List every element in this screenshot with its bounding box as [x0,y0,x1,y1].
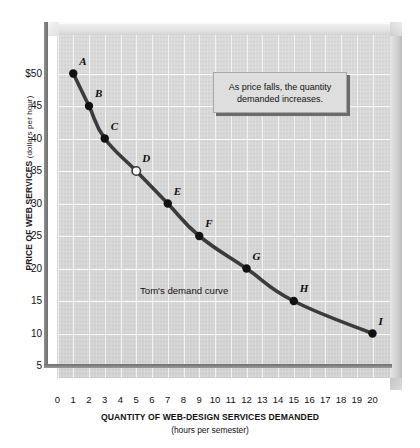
callout-text: As price falls, the quantity demanded in… [214,81,346,105]
data-point-label: F [205,218,212,229]
gridline-horizontal [57,269,390,270]
y-tick-label: 45 [2,101,42,111]
y-tick-label: 20 [2,264,42,274]
gridline-horizontal [57,236,390,237]
gridline-horizontal [57,171,390,172]
gridline-vertical [73,35,74,378]
y-tick-label: 15 [2,296,42,306]
x-axis-title: QUANTITY OF WEB-DESIGN SERVICES DEMANDED [0,412,420,422]
callout-body: As price falls, the quantity demanded in… [213,72,347,113]
data-point-label: G [253,251,261,262]
y-axis-line [44,22,48,368]
frame-corner-bottom-right [390,378,402,390]
annotation-callout: As price falls, the quantity demanded in… [213,72,347,113]
gridline-horizontal [57,301,390,302]
data-point-label: E [174,186,181,197]
x-axis-ticks: 01234567891011121314151617181920 [0,395,420,409]
y-tick-label: 35 [2,166,42,176]
y-tick-label: 5 [2,361,42,371]
frame-corner-top-left [47,22,59,36]
gridline-horizontal [57,334,390,335]
gridline-horizontal [57,139,390,140]
gridline-vertical [89,35,90,378]
x-axis-title-sub: (hours per semester) [0,425,420,435]
y-tick-label: $50 [2,69,42,79]
gridline-vertical [58,35,59,378]
gridline-vertical [152,35,153,378]
data-point-label: H [300,283,309,294]
gridline-vertical [184,35,185,378]
y-tick-label: 40 [2,134,42,144]
x-axis-line [44,364,392,368]
gridline-vertical [105,35,106,378]
y-tick-label: 30 [2,199,42,209]
curve-label: Tom's demand curve [140,285,228,296]
gridline-vertical [373,35,374,378]
gridline-horizontal [57,204,390,205]
frame-corner-top-right [390,22,402,36]
gridline-vertical [136,35,137,378]
chart-figure: PRICE OF WEB SERVICES (dollars per hour)… [0,0,420,448]
data-point-label: I [379,316,383,327]
gridline-vertical [168,35,169,378]
data-point-label: A [79,56,86,67]
gridline-vertical [121,35,122,378]
frame-right-bevel [390,22,402,390]
data-point-label: C [111,121,118,132]
y-tick-label: 25 [2,231,42,241]
gridline-vertical [199,35,200,378]
gridline-vertical [357,35,358,378]
data-point-label: D [142,153,150,164]
data-point-label: B [95,88,102,99]
y-tick-label: 10 [2,329,42,339]
y-axis-ticks: $5045403530252015105 [0,0,42,448]
x-tick-label: 20 [361,395,385,405]
frame-top-bevel [47,22,402,36]
